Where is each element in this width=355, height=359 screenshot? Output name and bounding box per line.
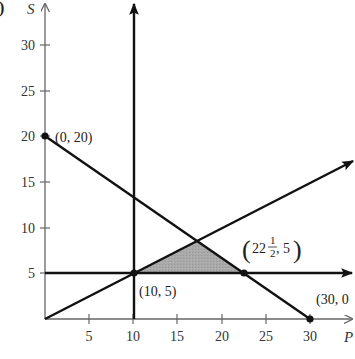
svg-text:20: 20 — [215, 329, 229, 344]
line-s-equals-half-p — [45, 161, 353, 319]
y-axis-title: S — [27, 1, 35, 17]
svg-text:15: 15 — [170, 329, 184, 344]
svg-text:5: 5 — [86, 329, 93, 344]
line-budget-constraint — [45, 136, 310, 319]
x-tick-labels: 5 10 15 20 25 30 — [86, 329, 318, 344]
vertex-30-0 — [306, 315, 313, 322]
svg-text:15: 15 — [21, 175, 35, 190]
label-0-20: (0, 20) — [55, 130, 93, 146]
label-30-0: (30, 0 — [316, 292, 349, 308]
svg-text:1: 1 — [270, 234, 276, 246]
svg-text:): ) — [293, 235, 302, 264]
x-axis-title: P — [343, 329, 353, 345]
label-22-half-5: ( 22 1 2 , 5 ) — [242, 234, 302, 264]
y-tick-labels: 5 10 15 20 25 30 — [21, 38, 35, 281]
svg-text:2: 2 — [270, 247, 276, 259]
svg-text:, 5: , 5 — [276, 241, 290, 256]
vertex-22-5-5 — [240, 269, 247, 276]
svg-text:(: ( — [242, 235, 251, 264]
label-10-5: (10, 5) — [139, 284, 177, 300]
svg-text:10: 10 — [126, 329, 140, 344]
svg-text:22: 22 — [252, 241, 266, 256]
svg-text:20: 20 — [21, 129, 35, 144]
feasible-region-chart: 5 10 15 20 25 30 5 10 15 20 25 30 S P ) … — [0, 0, 355, 359]
svg-text:30: 30 — [303, 329, 317, 344]
vertex-10-5 — [130, 269, 137, 276]
svg-text:25: 25 — [21, 84, 35, 99]
svg-text:5: 5 — [28, 266, 35, 281]
panel-marker: ) — [0, 0, 4, 17]
svg-text:25: 25 — [259, 329, 273, 344]
svg-text:10: 10 — [21, 221, 35, 236]
svg-text:30: 30 — [21, 38, 35, 53]
vertex-0-20 — [41, 132, 48, 139]
